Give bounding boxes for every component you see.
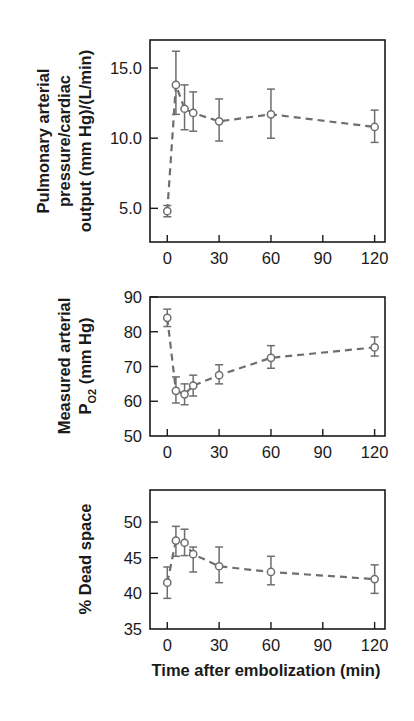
data-point-marker: [371, 344, 378, 351]
ylabel-bottom-text: % Dead space: [76, 504, 94, 615]
x-tick-label: 90: [314, 443, 332, 461]
data-point-marker: [172, 387, 179, 394]
y-tick-label: 50: [124, 427, 142, 445]
ylabel-middle-line-2: PO2 (mm Hg): [76, 317, 98, 414]
data-point-marker: [190, 109, 197, 116]
y-tick-label: 15.0: [110, 59, 142, 77]
po2-subscript: O2: [86, 389, 98, 404]
x-tick-label: 30: [210, 636, 228, 654]
ylabel-middle-line-1: Measured arterial: [55, 298, 73, 435]
data-point-marker: [216, 563, 223, 570]
y-tick-label: 35: [124, 620, 142, 638]
ylabel-top-line-2: pressure/cardiac: [55, 75, 73, 207]
data-point-marker: [164, 579, 171, 586]
plot-frame: [150, 297, 385, 436]
data-point-marker: [172, 537, 179, 544]
data-point-marker: [164, 314, 171, 321]
y-tick-label: 60: [124, 392, 142, 410]
figure-canvas: 03060901205.010.015.0 030609012050607080…: [0, 0, 414, 721]
plot-frame: [150, 40, 385, 242]
panel-arterial-po2: 03060901205060708090: [124, 288, 389, 461]
x-tick-label: 60: [262, 636, 280, 654]
data-point-marker: [164, 208, 171, 215]
x-axis-title: Time after embolization (min): [152, 661, 381, 679]
x-tick-label: 60: [262, 443, 280, 461]
data-point-marker: [190, 551, 197, 558]
data-point-marker: [172, 81, 179, 88]
ylabel-top: Pulmonary arterial pressure/cardiac outp…: [34, 50, 94, 232]
y-tick-label: 50: [124, 513, 142, 531]
po2-units: (mm Hg): [76, 317, 94, 389]
x-tick-label: 0: [163, 249, 172, 267]
plot-frame: [150, 490, 385, 629]
data-point-marker: [181, 539, 188, 546]
ylabel-top-line-3: output (mm Hg)/(L/min): [76, 50, 94, 232]
data-point-marker: [216, 118, 223, 125]
y-tick-label: 10.0: [110, 129, 142, 147]
po2-p: P: [76, 404, 94, 415]
data-point-marker: [371, 576, 378, 583]
x-tick-label: 30: [210, 249, 228, 267]
y-tick-label: 80: [124, 323, 142, 341]
ylabel-middle: Measured arterial PO2 (mm Hg): [55, 298, 98, 435]
data-point-marker: [216, 372, 223, 379]
x-tick-label: 120: [361, 443, 389, 461]
panel-pulmonary-pressure-ratio: 03060901205.010.015.0: [110, 40, 389, 267]
data-point-marker: [267, 568, 274, 575]
data-point-marker: [267, 111, 274, 118]
ylabel-top-line-1: Pulmonary arterial: [34, 69, 52, 214]
x-tick-label: 60: [262, 249, 280, 267]
data-point-marker: [181, 105, 188, 112]
x-tick-label: 30: [210, 443, 228, 461]
x-tick-label: 90: [314, 249, 332, 267]
y-tick-label: 90: [124, 288, 142, 306]
data-point-marker: [190, 382, 197, 389]
y-tick-label: 5.0: [119, 199, 142, 217]
x-tick-label: 120: [361, 249, 389, 267]
x-tick-label: 120: [361, 636, 389, 654]
x-tick-label: 0: [163, 636, 172, 654]
x-tick-label: 90: [314, 636, 332, 654]
y-tick-label: 40: [124, 584, 142, 602]
y-tick-label: 70: [124, 358, 142, 376]
x-tick-label: 0: [163, 443, 172, 461]
y-tick-label: 45: [124, 549, 142, 567]
data-point-marker: [181, 391, 188, 398]
ylabel-bottom: % Dead space: [76, 504, 94, 615]
panel-dead-space: 030609012035404550: [124, 490, 389, 654]
data-point-marker: [371, 123, 378, 130]
figure: 03060901205.010.015.0 030609012050607080…: [0, 0, 414, 721]
data-point-marker: [267, 354, 274, 361]
